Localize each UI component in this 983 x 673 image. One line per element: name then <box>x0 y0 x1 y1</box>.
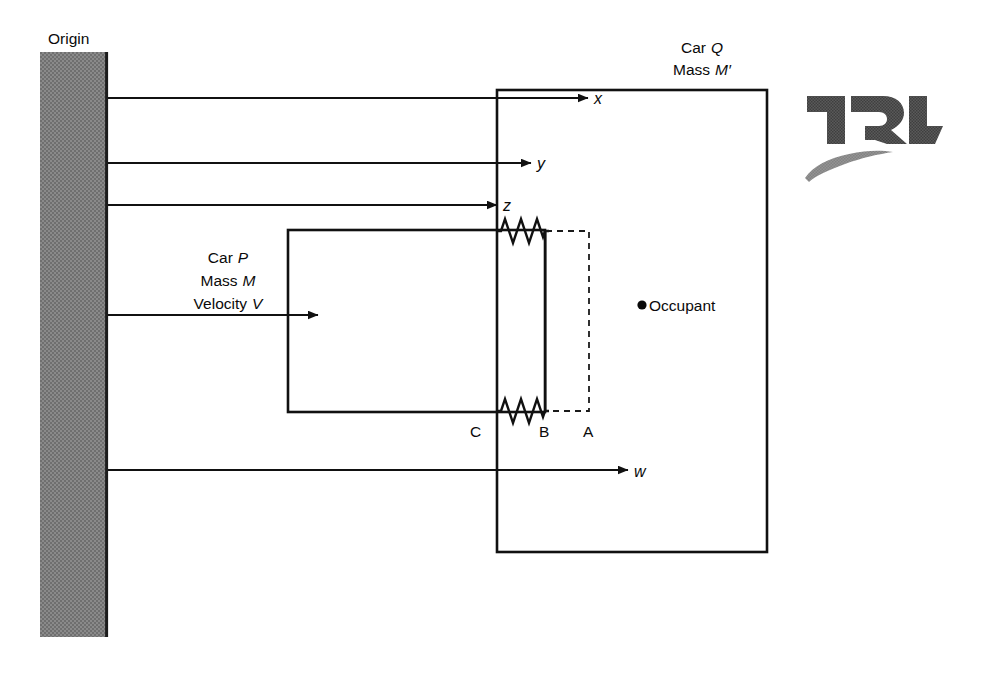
car-q-line1: CarQ <box>681 39 723 56</box>
trl-logo-letter-l <box>909 96 943 144</box>
origin-wall-group <box>40 52 108 637</box>
car-q-line2: MassM′ <box>673 61 732 78</box>
trl-logo <box>805 96 943 182</box>
trl-logo-letter-r <box>851 96 907 144</box>
point-label-a: A <box>583 423 594 440</box>
car-p-line3: VelocityV <box>194 295 264 312</box>
occupant-dot-icon <box>637 300 646 309</box>
point-label-b: B <box>539 423 549 440</box>
diagram-canvas: Origin CarQ MassM′ CarP MassM VelocityV … <box>0 0 983 673</box>
car-q-label-group: CarQ MassM′ <box>673 39 732 78</box>
line-a-dashed-outline <box>546 231 589 411</box>
trl-logo-swoosh <box>805 151 893 182</box>
axis-label-z: z <box>502 197 511 214</box>
car-p-body <box>288 230 545 412</box>
reference-lines-group <box>108 98 628 470</box>
occupant-label: Occupant <box>649 297 716 314</box>
origin-label: Origin <box>48 30 89 47</box>
car-p-label-group: CarP MassM VelocityV <box>194 249 264 312</box>
car-p-line2: MassM <box>201 272 256 289</box>
axis-label-y: y <box>536 155 546 172</box>
car-p-line1: CarP <box>208 249 249 266</box>
axis-label-w: w <box>634 463 647 480</box>
contact-springs-group <box>497 219 549 423</box>
origin-wall <box>40 52 108 637</box>
axis-label-x: x <box>593 90 603 107</box>
collision-model-diagram: Origin CarQ MassM′ CarP MassM VelocityV … <box>0 0 983 673</box>
trl-logo-letter-t <box>807 96 845 144</box>
point-label-c: C <box>470 423 481 440</box>
